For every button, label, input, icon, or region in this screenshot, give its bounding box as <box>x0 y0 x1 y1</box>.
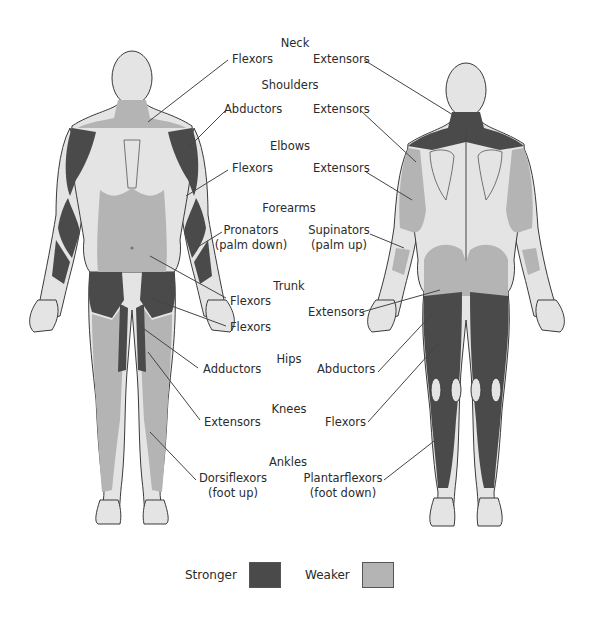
muscle-strength-diagram: .sk{fill:#e4e4e4;stroke:#3a3a3a;stroke-w… <box>0 0 590 619</box>
hips-adductors-label: Adductors <box>203 362 261 377</box>
shoulders-abductors-label: Abductors <box>224 102 282 117</box>
elbows-flexors-label: Flexors <box>232 161 273 176</box>
legend-stronger-label: Stronger <box>185 568 237 582</box>
hips-abductors-label: Abductors <box>317 362 375 377</box>
legend-stronger: Stronger <box>185 562 281 588</box>
back-figure <box>368 63 565 526</box>
legend-weaker-swatch <box>362 562 394 588</box>
region-elbows: Elbows <box>270 139 310 154</box>
forearms-pronators-label: Pronators <box>224 223 279 238</box>
forearms-supinators-sub: (palm up) <box>311 238 367 253</box>
trunk-flexors-label-2: Flexors <box>230 320 271 335</box>
front-figure <box>30 51 235 524</box>
ankles-plantarflexors-label: Plantarflexors <box>303 471 382 486</box>
neck-extensors-label: Extensors <box>313 52 370 67</box>
region-knees: Knees <box>272 402 307 417</box>
region-ankles: Ankles <box>269 455 307 470</box>
region-neck: Neck <box>281 36 310 51</box>
trunk-flexors-label-1: Flexors <box>230 294 271 309</box>
legend-weaker: Weaker <box>305 562 394 588</box>
region-hips: Hips <box>276 352 301 367</box>
legend-stronger-swatch <box>249 562 281 588</box>
ankles-plantarflexors-sub: (foot down) <box>310 486 376 501</box>
ankles-dorsiflexors-sub: (foot up) <box>208 486 258 501</box>
region-trunk: Trunk <box>273 279 304 294</box>
knees-extensors-label: Extensors <box>204 415 261 430</box>
legend-weaker-label: Weaker <box>305 568 350 582</box>
region-shoulders: Shoulders <box>261 78 318 93</box>
region-forearms: Forearms <box>262 201 316 216</box>
shoulders-extensors-label: Extensors <box>313 102 370 117</box>
elbows-extensors-label: Extensors <box>313 161 370 176</box>
forearms-pronators-sub: (palm down) <box>215 238 287 253</box>
knees-flexors-label: Flexors <box>325 415 366 430</box>
neck-flexors-label: Flexors <box>232 52 273 67</box>
forearms-supinators-label: Supinators <box>308 223 370 238</box>
ankles-dorsiflexors-label: Dorsiflexors <box>199 471 267 486</box>
trunk-extensors-label: Extensors <box>308 305 365 320</box>
